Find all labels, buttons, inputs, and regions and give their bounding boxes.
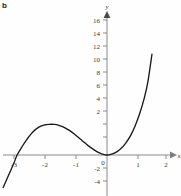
y-tick-label--2: -2	[94, 165, 100, 173]
x-tick-label--2: -2	[42, 161, 48, 169]
y-tick-label-6: 6	[97, 82, 101, 90]
y-tick-label-12: 12	[93, 43, 101, 51]
x-tick-label-2: 2	[164, 161, 168, 169]
y-tick-label-2: 2	[97, 108, 101, 116]
y-axis-arrow	[104, 11, 111, 18]
x-tick-marks	[14, 155, 166, 159]
x-tick-label-0: 0	[101, 159, 105, 167]
y-tick-label-4: 4	[97, 95, 101, 103]
y-tick-label-8: 8	[97, 69, 101, 77]
cubic-function-plot: -3 -2 -1 0 1 2 16 14 12 10 8 6 4 2 -2 -4…	[0, 0, 181, 196]
y-axis-label: y	[104, 3, 109, 11]
x-tick-label-1: 1	[136, 161, 140, 169]
y-tick-label--4: -4	[94, 178, 100, 186]
figure-panel: b -	[0, 0, 181, 196]
x-axis-label: x	[176, 152, 181, 160]
y-tick-label-14: 14	[93, 30, 101, 38]
x-axis-arrow	[170, 152, 177, 159]
y-tick-marks	[103, 20, 107, 181]
y-tick-label-16: 16	[93, 17, 101, 25]
x-tick-label--1: -1	[73, 161, 79, 169]
y-tick-label-10: 10	[93, 56, 101, 64]
